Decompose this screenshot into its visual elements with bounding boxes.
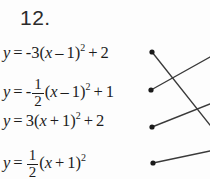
equation-2-fraction-denominator: 2 (32, 94, 44, 109)
equation-row-2: y = - 1 2 ( x – 1 ) 2 + 1 (3, 76, 114, 108)
equation-2-expression: y = - 1 2 ( x – 1 ) 2 + 1 (3, 76, 114, 108)
match-line-3 (152, 104, 210, 127)
equation-1-inner-var: x (45, 45, 52, 62)
match-dot-4[interactable] (150, 160, 155, 165)
equation-4-fraction: 1 2 (27, 148, 39, 179)
match-dot-3[interactable] (149, 124, 154, 129)
equation-row-3: y = 3 ( x + 1 ) 2 + 2 (3, 113, 104, 130)
match-dot-2[interactable] (148, 87, 153, 92)
equation-2-inner-const: 1 (72, 84, 80, 101)
equation-2-fraction: 1 2 (32, 77, 44, 109)
worksheet-page: 12. y = -3 ( x – 1 ) 2 + 2 y = - 1 2 ( (0, 0, 210, 179)
equation-1-tail-const: 2 (101, 45, 109, 62)
equation-3-expression: y = 3 ( x + 1 ) 2 + 2 (3, 113, 104, 130)
equation-2-fraction-numerator: 1 (32, 77, 44, 92)
equation-1-lhs: y (3, 45, 10, 62)
equation-3-inner-const: 1 (62, 113, 70, 130)
equation-3-exponent: 2 (76, 111, 81, 121)
equation-1-expression: y = -3 ( x – 1 ) 2 + 2 (3, 45, 109, 62)
equation-4-exponent: 2 (81, 153, 86, 163)
equation-3-tail-op: + (81, 113, 96, 130)
equation-1-inner-op: – (52, 45, 66, 62)
equation-3-coefficient: 3 (26, 113, 34, 130)
equation-1-equals: = (10, 45, 25, 62)
equation-1-tail-op: + (85, 45, 100, 62)
match-dot-1[interactable] (149, 49, 154, 54)
equation-4-fraction-numerator: 1 (27, 148, 39, 163)
equation-4-inner-op: + (52, 155, 67, 172)
equation-1-exponent: 2 (80, 43, 85, 53)
equation-3-tail-const: 2 (96, 113, 104, 130)
equation-2-sign: - (26, 84, 32, 101)
equation-3-inner-op: + (47, 113, 62, 130)
equation-4-fraction-denominator: 2 (27, 165, 39, 179)
equation-2-inner-var: x (50, 84, 57, 101)
equation-4-equals: = (10, 155, 25, 172)
match-line-4 (153, 151, 210, 163)
equation-1-inner-const: 1 (66, 45, 74, 62)
equation-3-equals: = (10, 113, 25, 130)
match-line-1 (152, 52, 210, 125)
equation-4-expression: y = 1 2 ( x + 1 ) 2 (3, 147, 86, 179)
equation-2-equals: = (10, 84, 25, 101)
equation-row-4: y = 1 2 ( x + 1 ) 2 (3, 147, 86, 179)
equation-2-tail-const: 1 (106, 84, 114, 101)
match-line-2 (151, 57, 210, 90)
equation-4-inner-var: x (45, 155, 52, 172)
equation-1-coefficient: -3 (26, 45, 40, 62)
equation-2-lhs: y (3, 84, 10, 101)
problem-number: 12. (20, 6, 51, 30)
equation-2-exponent: 2 (85, 82, 90, 92)
equation-2-inner-op: – (57, 84, 71, 101)
equation-4-lhs: y (3, 155, 10, 172)
equation-2-tail-op: + (90, 84, 105, 101)
equation-3-inner-var: x (39, 113, 46, 130)
equation-row-1: y = -3 ( x – 1 ) 2 + 2 (3, 45, 109, 62)
equation-3-lhs: y (3, 113, 10, 130)
equation-4-inner-const: 1 (67, 155, 75, 172)
